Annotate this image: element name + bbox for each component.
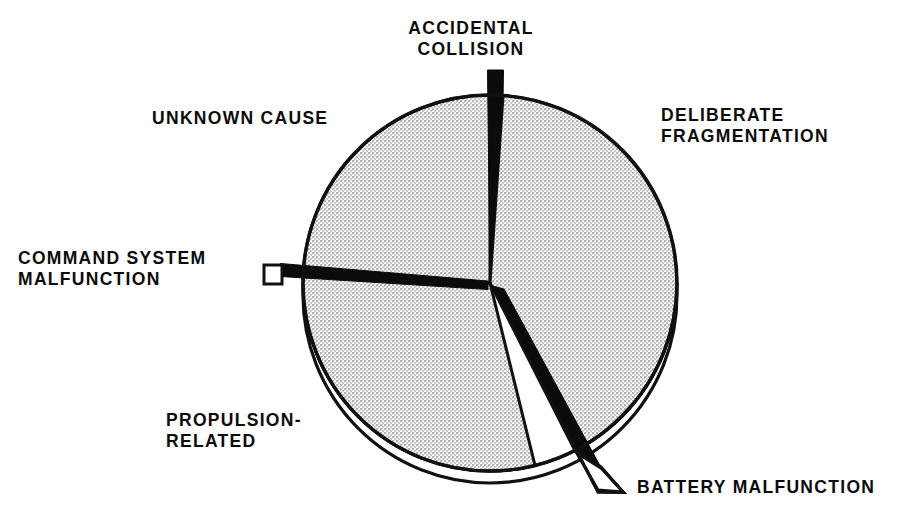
label-deliberate-fragmentation: DELIBERATE FRAGMENTATION [661, 105, 897, 146]
label-propulsion-related: PROPULSION- RELATED [166, 410, 386, 451]
pie-chart: ACCIDENTAL COLLISION DELIBERATE FRAGMENT… [0, 0, 897, 528]
label-unknown-cause: UNKNOWN CAUSE [152, 108, 382, 129]
label-accidental-collision: ACCIDENTAL COLLISION [371, 18, 571, 59]
label-command-system-malfunction: COMMAND SYSTEM MALFUNCTION [18, 248, 254, 289]
label-battery-malfunction: BATTERY MALFUNCTION [637, 477, 897, 498]
